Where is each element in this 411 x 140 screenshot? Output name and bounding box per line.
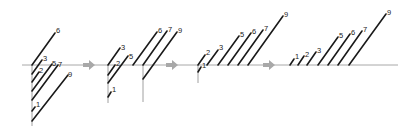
segment-label: 1 xyxy=(36,100,40,109)
segment-label: 7 xyxy=(264,24,268,33)
segment-label: 1 xyxy=(295,52,299,61)
segment-label: 9 xyxy=(284,10,288,19)
segment-label: 3 xyxy=(219,43,223,52)
segment-label: 7 xyxy=(58,60,62,69)
panel-3: 1235679 xyxy=(198,10,288,83)
right-arrow-icon xyxy=(83,60,95,70)
segment-label: 3 xyxy=(43,54,47,63)
segment-label: 6 xyxy=(252,27,256,36)
segment-label: 9 xyxy=(387,8,391,17)
diagonal-segment-1 xyxy=(290,59,294,65)
segment-label: 2 xyxy=(39,66,43,75)
panel-1: 6325719 xyxy=(32,26,72,126)
right-arrow-icon xyxy=(166,60,178,70)
diagram-canvas: 6325719325167912356791235679 xyxy=(0,0,411,140)
segment-label: 1 xyxy=(202,61,206,70)
right-arrow-icon xyxy=(263,60,275,70)
segment-label: 9 xyxy=(178,26,182,35)
segment-label: 3 xyxy=(317,46,321,55)
segment-label: 5 xyxy=(240,30,244,39)
diagonal-segment-2 xyxy=(108,65,115,75)
segment-label: 5 xyxy=(129,52,133,61)
diagonal-segment-9 xyxy=(349,14,386,65)
diagonal-segment-9 xyxy=(143,32,177,79)
segment-label: 9 xyxy=(68,70,72,79)
segment-label: 7 xyxy=(168,25,172,34)
diagonal-segment-9 xyxy=(32,75,68,121)
segment-label: 5 xyxy=(52,59,56,68)
panel-4: 1235679 xyxy=(290,8,391,65)
diagonal-segment-7 xyxy=(32,65,58,100)
segment-label: 5 xyxy=(339,31,343,40)
diagonal-segment-6 xyxy=(133,32,157,65)
segment-label: 6 xyxy=(351,28,355,37)
segment-label: 6 xyxy=(56,26,60,35)
segment-label: 2 xyxy=(206,48,210,57)
segment-label: 7 xyxy=(363,25,367,34)
segment-label: 1 xyxy=(112,85,116,94)
segment-label: 2 xyxy=(305,50,309,59)
segment-label: 3 xyxy=(121,43,125,52)
segment-label: 6 xyxy=(158,26,162,35)
